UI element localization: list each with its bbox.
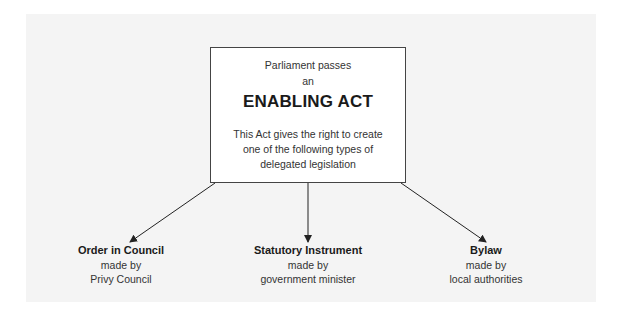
leaf-order-in-council: Order in Council made by Privy Council <box>41 243 201 286</box>
leaf-maker: Privy Council <box>41 272 201 286</box>
leaf-maker: government minister <box>228 272 388 286</box>
leaf-made-by: made by <box>41 258 201 272</box>
leaf-statutory-instrument: Statutory Instrument made by government … <box>228 243 388 286</box>
leaf-name: Order in Council <box>41 243 201 258</box>
leaf-made-by: made by <box>228 258 388 272</box>
leaf-made-by: made by <box>406 258 566 272</box>
leaf-maker: local authorities <box>406 272 566 286</box>
arrow-to-bylaw <box>401 183 486 242</box>
leaf-name: Statutory Instrument <box>228 243 388 258</box>
arrow-to-order-in-council <box>130 183 215 242</box>
leaf-name: Bylaw <box>406 243 566 258</box>
leaf-bylaw: Bylaw made by local authorities <box>406 243 566 286</box>
